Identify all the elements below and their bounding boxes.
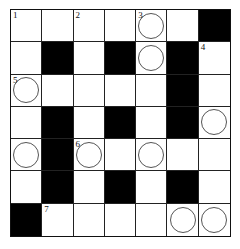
- crossword-cell[interactable]: [136, 204, 167, 236]
- black-square: [105, 107, 136, 139]
- crossword-cell[interactable]: [11, 107, 42, 139]
- crossword-cell[interactable]: [167, 10, 198, 42]
- black-square: [199, 10, 230, 42]
- black-square: [167, 107, 198, 139]
- black-square: [42, 171, 73, 203]
- crossword-cell[interactable]: [199, 204, 230, 236]
- circle-marker-icon: [138, 45, 164, 71]
- clue-number: 1: [13, 10, 18, 20]
- clue-number: 4: [201, 42, 206, 52]
- circle-marker-icon: [170, 207, 196, 233]
- black-square: [105, 42, 136, 74]
- crossword-cell[interactable]: [136, 42, 167, 74]
- crossword-cell[interactable]: [105, 139, 136, 171]
- crossword-cell[interactable]: 7: [42, 204, 73, 236]
- crossword-cell[interactable]: [105, 204, 136, 236]
- black-square: [42, 139, 73, 171]
- circle-marker-icon: [138, 142, 164, 168]
- crossword-cell[interactable]: [11, 171, 42, 203]
- crossword-cell[interactable]: [199, 75, 230, 107]
- clue-number: 2: [76, 10, 81, 20]
- crossword-cell[interactable]: [136, 107, 167, 139]
- crossword-cell[interactable]: [199, 139, 230, 171]
- black-square: [42, 107, 73, 139]
- crossword-cell[interactable]: [11, 139, 42, 171]
- crossword-cell[interactable]: 5: [11, 75, 42, 107]
- clue-number: 6: [76, 139, 81, 149]
- crossword-cell[interactable]: 3: [136, 10, 167, 42]
- crossword-cell[interactable]: [11, 42, 42, 74]
- crossword-cell[interactable]: 6: [74, 139, 105, 171]
- crossword-cell[interactable]: [105, 10, 136, 42]
- crossword-cell[interactable]: [136, 75, 167, 107]
- crossword-cell[interactable]: 4: [199, 42, 230, 74]
- black-square: [105, 171, 136, 203]
- circle-marker-icon: [201, 207, 227, 233]
- crossword-cell[interactable]: 2: [74, 10, 105, 42]
- crossword-cell[interactable]: [136, 139, 167, 171]
- crossword-cell[interactable]: [74, 75, 105, 107]
- crossword-cell[interactable]: [199, 171, 230, 203]
- black-square: [167, 42, 198, 74]
- black-square: [42, 42, 73, 74]
- crossword-cell[interactable]: [74, 204, 105, 236]
- crossword-cell[interactable]: [199, 107, 230, 139]
- clue-number: 3: [138, 10, 143, 20]
- crossword-cell[interactable]: [74, 107, 105, 139]
- crossword-cell[interactable]: [42, 10, 73, 42]
- black-square: [167, 75, 198, 107]
- crossword-cell[interactable]: [74, 171, 105, 203]
- black-square: [167, 171, 198, 203]
- circle-marker-icon: [13, 142, 39, 168]
- crossword-grid: 1234567: [10, 9, 231, 237]
- clue-number: 7: [44, 204, 49, 214]
- black-square: [11, 204, 42, 236]
- crossword-cell[interactable]: [74, 42, 105, 74]
- crossword-cell[interactable]: [167, 204, 198, 236]
- crossword-cell[interactable]: [105, 75, 136, 107]
- circle-marker-icon: [201, 109, 227, 135]
- crossword-cell[interactable]: [136, 171, 167, 203]
- clue-number: 5: [13, 75, 18, 85]
- crossword-cell[interactable]: [167, 139, 198, 171]
- crossword-cell[interactable]: [42, 75, 73, 107]
- crossword-cell[interactable]: 1: [11, 10, 42, 42]
